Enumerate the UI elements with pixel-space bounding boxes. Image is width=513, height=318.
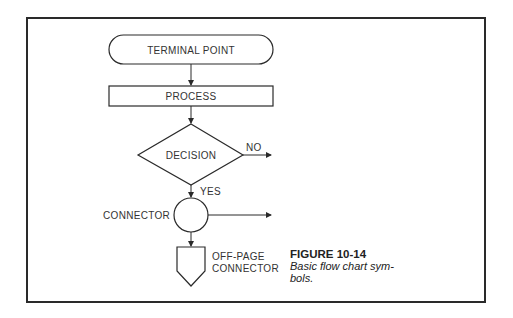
offpage-label-line2: CONNECTOR <box>212 263 279 274</box>
figure-caption-line1: Basic flow chart sym- <box>290 260 420 272</box>
figure-caption-line2: bols. <box>290 272 420 284</box>
yes-label: YES <box>200 186 221 197</box>
flowchart-diagram: TERMINAL POINT PROCESS DECISION NO YES C… <box>0 0 513 318</box>
terminal-label: TERMINAL POINT <box>147 45 235 56</box>
offpage-label-line1: OFF-PAGE <box>212 251 265 262</box>
no-label: NO <box>246 142 262 153</box>
decision-label: DECISION <box>166 150 217 161</box>
figure-caption: FIGURE 10-14 Basic flow chart sym- bols. <box>290 248 420 284</box>
connector-symbol <box>174 198 208 232</box>
connector-label: CONNECTOR <box>103 210 170 221</box>
terminal-symbol: TERMINAL POINT <box>109 35 273 64</box>
offpage-connector-symbol <box>177 247 205 286</box>
decision-symbol: DECISION <box>138 124 243 185</box>
figure-number: FIGURE 10-14 <box>290 248 420 260</box>
process-symbol: PROCESS <box>109 86 273 106</box>
process-label: PROCESS <box>165 91 216 102</box>
